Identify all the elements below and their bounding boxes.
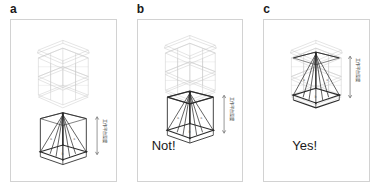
edge-label-a1: a	[177, 116, 179, 120]
panel-label-a: a	[10, 2, 16, 16]
panel-b-artwork: a a b 工作平台高度	[138, 20, 243, 181]
panel-a: a	[0, 0, 127, 192]
edge-label-b: b	[315, 95, 317, 99]
vertical-height-label: 工作平台高度	[355, 58, 361, 82]
panel-label-c: c	[263, 2, 269, 16]
edge-label-b: b	[189, 130, 191, 134]
tensegrity-pyramid-icon	[166, 91, 214, 143]
height-annotation	[349, 56, 352, 98]
panel-c: c	[253, 0, 380, 192]
height-annotation	[95, 117, 98, 155]
panel-b: b	[127, 0, 254, 192]
edge-label-a2: a	[200, 116, 202, 120]
panel-c-artwork: a a b 工作平台高度	[264, 20, 369, 181]
verdict-not: Not!	[152, 139, 176, 153]
figure-root: a	[0, 0, 380, 192]
vertical-height-label: 工作平台高度	[102, 119, 108, 143]
edge-label-a2: a	[74, 137, 76, 141]
panel-frame-b: a a b 工作平台高度 Not!	[137, 19, 244, 182]
height-annotation	[222, 95, 225, 133]
vertical-height-label: 工作平台高度	[229, 97, 235, 121]
panel-frame-a: a a b 工作平台高度	[10, 19, 117, 182]
panel-label-b: b	[137, 2, 144, 16]
panel-frame-c: a a b 工作平台高度 Yes!	[263, 19, 370, 182]
tensegrity-pyramid-icon	[39, 113, 87, 165]
edge-label-b: b	[62, 152, 64, 156]
verdict-yes: Yes!	[292, 139, 317, 153]
panel-a-artwork: a a b 工作平台高度	[11, 20, 116, 181]
wireframe-scaffold-icon	[37, 40, 89, 107]
edge-label-a1: a	[50, 137, 52, 141]
edge-label-a1: a	[303, 78, 305, 82]
